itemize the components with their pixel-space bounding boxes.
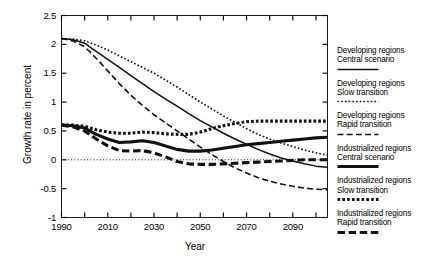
- legend-item-label-line1: Developing regions: [337, 79, 441, 88]
- series-line: [62, 39, 328, 190]
- legend-item-label-line2: Rapid transition: [337, 120, 441, 129]
- legend-item-label-line1: Industrialized regions: [337, 144, 441, 153]
- legend-item-label-line2: Rapid transition: [337, 218, 441, 227]
- legend-line-sample: [337, 196, 379, 203]
- legend-item[interactable]: Developing regionsCentral scenario: [337, 46, 441, 73]
- legend-item-label-line2: Central scenario: [337, 153, 441, 162]
- chart-legend: Developing regionsCentral scenarioDevelo…: [337, 46, 441, 242]
- series-line: [62, 39, 328, 168]
- legend-line-sample: [337, 131, 379, 138]
- series-line: [62, 121, 328, 134]
- legend-item-label-line2: Slow transition: [337, 88, 441, 97]
- legend-line-sample: [337, 98, 379, 105]
- legend-item[interactable]: Developing regionsSlow transition: [337, 79, 441, 106]
- legend-line-sample: [337, 163, 379, 170]
- legend-item-label-line1: Industrialized regions: [337, 176, 441, 185]
- legend-item-label-line1: Industrialized regions: [337, 209, 441, 218]
- legend-item-label-line2: Slow transition: [337, 186, 441, 195]
- legend-item-label-line2: Central scenario: [337, 55, 441, 64]
- legend-item[interactable]: Industrialized regionsCentral scenario: [337, 144, 441, 171]
- legend-line-sample: [337, 229, 379, 236]
- series-line: [62, 125, 328, 151]
- chart-figure: 2.521.510.50-0.5-1 Growth rate in percen…: [0, 0, 443, 269]
- legend-item[interactable]: Industrialized regionsSlow transition: [337, 176, 441, 203]
- legend-item-label-line1: Developing regions: [337, 111, 441, 120]
- legend-item[interactable]: Industrialized regionsRapid transition: [337, 209, 441, 236]
- legend-line-sample: [337, 66, 379, 73]
- data-series-lines: [62, 39, 328, 190]
- legend-item-label-line1: Developing regions: [337, 46, 441, 55]
- legend-item[interactable]: Developing regionsRapid transition: [337, 111, 441, 138]
